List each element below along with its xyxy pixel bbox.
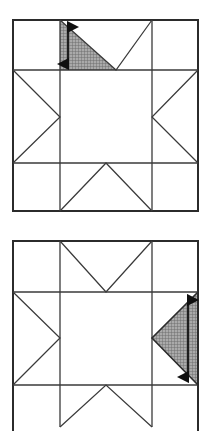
figure-top-star-block xyxy=(0,0,210,225)
figure-bottom-canvas xyxy=(0,221,210,427)
shaded-triangle-bottom xyxy=(152,292,198,385)
triangle-middle-left-top xyxy=(13,70,60,163)
triangle-middle-left-bottom xyxy=(13,292,60,385)
figure-top-canvas xyxy=(0,0,210,221)
outer-frame-top xyxy=(13,20,198,211)
triangle-top-center-bottom xyxy=(60,241,152,292)
figure-bottom-star-block xyxy=(0,221,210,431)
triangle-bottom-center-top xyxy=(60,163,152,211)
triangle-bottom-center-bottom xyxy=(60,385,152,427)
triangle-middle-right-top xyxy=(152,70,198,163)
